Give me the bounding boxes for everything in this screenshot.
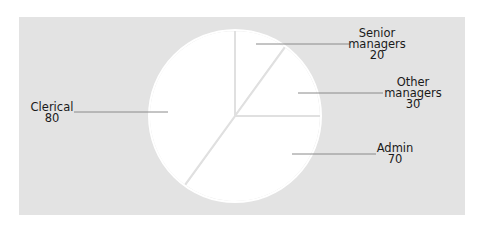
slice-label-senior-managers: Senior managers 20	[347, 28, 407, 61]
slice-label-other-managers: Other managers 30	[383, 77, 443, 110]
label-value: 80	[27, 113, 77, 124]
label-value: 30	[383, 99, 443, 110]
slice-label-admin: Admin 70	[370, 143, 420, 165]
slice-label-clerical: Clerical 80	[27, 102, 77, 124]
label-value: 70	[370, 154, 420, 165]
pie-slices	[149, 30, 321, 202]
label-value: 20	[347, 50, 407, 61]
